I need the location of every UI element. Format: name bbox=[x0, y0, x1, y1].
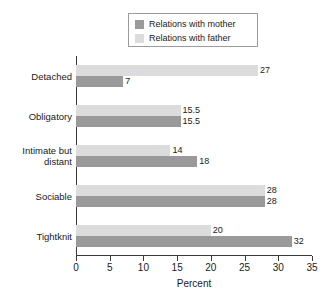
category-label-line1: Tightknit bbox=[0, 231, 72, 242]
category-label-intimate-but-distant: Intimate but distant bbox=[0, 145, 72, 167]
x-tick-label: 5 bbox=[107, 262, 113, 274]
bar-group: 15.515.5 bbox=[76, 105, 312, 127]
legend-label-father: Relations with father bbox=[149, 33, 231, 43]
legend-swatch-mother-icon bbox=[135, 20, 144, 29]
x-tick-label: 30 bbox=[273, 262, 284, 274]
bar-row: 7 bbox=[76, 76, 312, 87]
bar-value-label: 15.5 bbox=[181, 116, 201, 127]
bar-row: 14 bbox=[76, 145, 312, 156]
bar-father[interactable] bbox=[76, 65, 258, 76]
bar-row: 18 bbox=[76, 156, 312, 167]
bar-row: 28 bbox=[76, 185, 312, 196]
bar-mother[interactable] bbox=[76, 196, 265, 207]
bar-chart: Relations with mother Relations with fat… bbox=[0, 0, 330, 304]
legend-swatch-father-icon bbox=[135, 34, 144, 43]
bar-row: 20 bbox=[76, 225, 312, 236]
category-label-line1: Obligatory bbox=[0, 111, 72, 122]
chart-legend: Relations with mother Relations with fat… bbox=[128, 13, 258, 47]
bar-father[interactable] bbox=[76, 105, 181, 116]
bar-group: 277 bbox=[76, 65, 312, 87]
category-label-line1: Detached bbox=[0, 71, 72, 82]
bar-value-label: 20 bbox=[211, 225, 223, 236]
category-label-tightknit: Tightknit bbox=[0, 231, 72, 242]
bar-row: 15.5 bbox=[76, 105, 312, 116]
x-tick-label: 0 bbox=[73, 262, 79, 274]
category-axis-labels: Detached Obligatory Intimate but distant… bbox=[0, 56, 72, 255]
bar-father[interactable] bbox=[76, 225, 211, 236]
x-tick-label: 35 bbox=[306, 262, 317, 274]
bar-mother[interactable] bbox=[76, 156, 197, 167]
plot-area: 05101520253035 27715.515.5141828282032 P… bbox=[76, 56, 312, 255]
category-label-line1: Sociable bbox=[0, 191, 72, 202]
category-label-detached: Detached bbox=[0, 71, 72, 82]
bar-value-label: 28 bbox=[265, 196, 277, 207]
x-tick bbox=[110, 256, 111, 261]
legend-item-father: Relations with father bbox=[135, 31, 253, 45]
legend-item-mother: Relations with mother bbox=[135, 17, 253, 31]
category-label-obligatory: Obligatory bbox=[0, 111, 72, 122]
bar-value-label: 28 bbox=[265, 185, 277, 196]
bar-value-label: 7 bbox=[123, 76, 130, 87]
bar-row: 28 bbox=[76, 196, 312, 207]
bar-value-label: 15.5 bbox=[181, 105, 201, 116]
bar-father[interactable] bbox=[76, 185, 265, 196]
bar-value-label: 32 bbox=[292, 236, 304, 247]
bar-value-label: 14 bbox=[170, 145, 182, 156]
x-tick bbox=[312, 256, 313, 261]
x-axis-title: Percent bbox=[76, 278, 312, 289]
x-tick bbox=[76, 256, 77, 261]
x-tick bbox=[211, 256, 212, 261]
bar-mother[interactable] bbox=[76, 236, 292, 247]
x-tick-label: 15 bbox=[172, 262, 183, 274]
bar-father[interactable] bbox=[76, 145, 170, 156]
legend-label-mother: Relations with mother bbox=[149, 19, 236, 29]
bar-row: 27 bbox=[76, 65, 312, 76]
bar-group: 2828 bbox=[76, 185, 312, 207]
bar-mother[interactable] bbox=[76, 76, 123, 87]
bar-group: 1418 bbox=[76, 145, 312, 167]
category-label-line2: distant bbox=[0, 156, 72, 167]
category-label-line1: Intimate but bbox=[0, 145, 72, 156]
bar-row: 32 bbox=[76, 236, 312, 247]
bar-row: 15.5 bbox=[76, 116, 312, 127]
x-axis-line bbox=[76, 255, 312, 256]
bar-mother[interactable] bbox=[76, 116, 181, 127]
x-tick bbox=[143, 256, 144, 261]
x-tick bbox=[177, 256, 178, 261]
x-tick-label: 20 bbox=[205, 262, 216, 274]
bar-value-label: 18 bbox=[197, 156, 209, 167]
bar-value-label: 27 bbox=[258, 65, 270, 76]
bar-group: 2032 bbox=[76, 225, 312, 247]
x-tick-label: 10 bbox=[138, 262, 149, 274]
x-tick bbox=[278, 256, 279, 261]
x-tick bbox=[245, 256, 246, 261]
category-label-sociable: Sociable bbox=[0, 191, 72, 202]
x-tick-label: 25 bbox=[239, 262, 250, 274]
